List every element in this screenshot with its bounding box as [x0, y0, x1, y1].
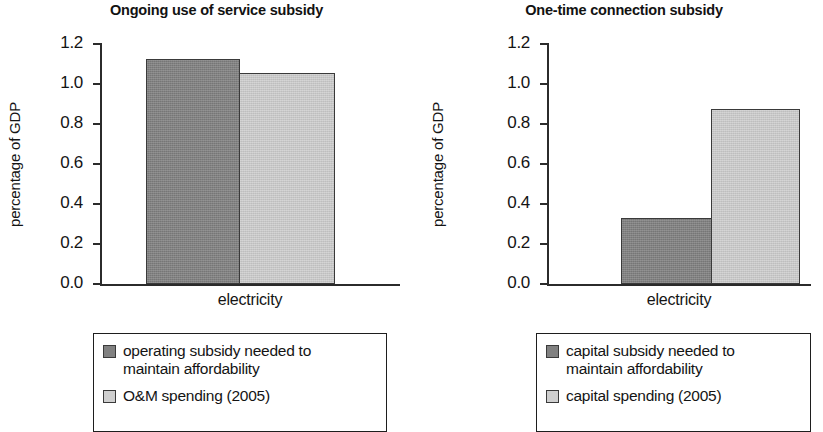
- bar-operating-subsidy: [146, 59, 240, 284]
- legend-label-capital-spending: capital spending (2005): [566, 387, 721, 405]
- y-tick-right-2: 1.0: [540, 83, 547, 85]
- legend-label-right-line1: capital subsidy needed to: [566, 342, 735, 359]
- legend-label-capital-subsidy: capital subsidy needed tomaintain afford…: [566, 342, 735, 378]
- y-tick-label-right-1: 1.2: [507, 33, 530, 53]
- y-tick-label-7: 0.0: [60, 273, 83, 293]
- y-tick-6: 0.2: [93, 243, 100, 245]
- y-tick-5: 0.4: [93, 203, 100, 205]
- y-tick-label-right-2: 1.0: [507, 73, 530, 93]
- y-tick-1: 1.2: [93, 43, 100, 45]
- y-axis-title: percentage of GDP: [2, 44, 26, 284]
- y-tick-right-6: 0.2: [540, 243, 547, 245]
- y-tick-label-right-7: 0.0: [507, 273, 530, 293]
- y-tick-label-4: 0.6: [60, 153, 83, 173]
- legend-swatch-light-icon-right: [546, 390, 559, 403]
- y-tick-label-right-4: 0.6: [507, 153, 530, 173]
- y-tick-right-1: 1.2: [540, 43, 547, 45]
- y-tick-label-3: 0.8: [60, 113, 83, 133]
- y-tick-label-1: 1.2: [60, 33, 83, 53]
- legend-swatch-light-icon: [103, 390, 116, 403]
- y-axis-title-label-right: percentage of GDP: [429, 101, 446, 226]
- y-tick-label-6: 0.2: [60, 233, 83, 253]
- legend-label-line2: maintain affordability: [123, 360, 259, 377]
- legend-swatch-dark-icon: [103, 345, 116, 358]
- legend-swatch-dark-icon-right: [546, 345, 559, 358]
- y-tick-3: 0.8: [93, 123, 100, 125]
- x-axis-line: [100, 284, 400, 286]
- legend-label-om-spending: O&M spending (2005): [123, 387, 270, 405]
- y-tick-2: 1.0: [93, 83, 100, 85]
- y-tick-right-5: 0.4: [540, 203, 547, 205]
- plot-area-left: 1.2 1.0 0.8 0.6 0.4 0.2 0.0: [100, 43, 400, 284]
- y-axis-line-right: [547, 43, 549, 284]
- y-tick-label-5: 0.4: [60, 193, 83, 213]
- page-title: Ongoing use of service subsidy: [0, 2, 411, 18]
- page-title-right: One-time connection subsidy: [411, 2, 823, 18]
- y-axis-line: [100, 43, 102, 284]
- legend-label-operating-subsidy: operating subsidy needed tomaintain affo…: [123, 342, 311, 378]
- y-tick-4: 0.6: [93, 163, 100, 165]
- y-tick-label-right-6: 0.2: [507, 233, 530, 253]
- chart-panel-ongoing-use-of-service-subsidy: Ongoing use of service subsidy percentag…: [0, 0, 411, 432]
- x-axis-category-label: electricity: [100, 291, 400, 309]
- figure-two-bar-charts: Ongoing use of service subsidy percentag…: [0, 0, 823, 432]
- y-tick-right-4: 0.6: [540, 163, 547, 165]
- legend-right: capital subsidy needed tomaintain afford…: [536, 333, 811, 432]
- legend-item-capital-spending[interactable]: capital spending (2005): [546, 387, 801, 405]
- y-tick-right-3: 0.8: [540, 123, 547, 125]
- chart-panel-one-time-connection-subsidy: One-time connection subsidy percentage o…: [411, 0, 823, 432]
- y-tick-label-right-3: 0.8: [507, 113, 530, 133]
- bar-capital-subsidy: [621, 218, 712, 284]
- y-tick-label-right-5: 0.4: [507, 193, 530, 213]
- bar-capital-spending: [711, 109, 800, 284]
- legend-label-right-line2: maintain affordability: [566, 360, 702, 377]
- legend-item-capital-subsidy[interactable]: capital subsidy needed tomaintain afford…: [546, 342, 801, 378]
- x-axis-line-right: [547, 284, 811, 286]
- bar-om-spending: [239, 73, 335, 284]
- plot-area-right: 1.2 1.0 0.8 0.6 0.4 0.2 0.0: [547, 43, 811, 284]
- legend-left: operating subsidy needed tomaintain affo…: [93, 333, 387, 432]
- y-tick-7: 0.0: [93, 283, 100, 285]
- x-axis-category-label-right: electricity: [547, 291, 811, 309]
- legend-label-line1: operating subsidy needed to: [123, 342, 311, 359]
- legend-item-operating-subsidy[interactable]: operating subsidy needed tomaintain affo…: [103, 342, 377, 378]
- y-tick-label-2: 1.0: [60, 73, 83, 93]
- legend-item-om-spending[interactable]: O&M spending (2005): [103, 387, 377, 405]
- y-tick-right-7: 0.0: [540, 283, 547, 285]
- y-axis-title-label: percentage of GDP: [6, 101, 23, 226]
- y-axis-title-right: percentage of GDP: [425, 44, 449, 284]
